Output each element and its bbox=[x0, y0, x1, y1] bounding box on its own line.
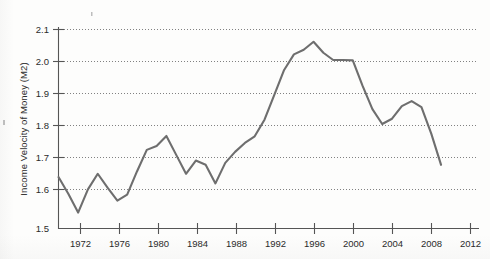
xtick-label-1980: 1980 bbox=[148, 238, 169, 249]
xtick-label-1988: 1988 bbox=[226, 238, 247, 249]
xtick-label-1976: 1976 bbox=[109, 238, 130, 249]
series-line-income-velocity bbox=[59, 42, 442, 213]
ytick-label-1.9: 1.9 bbox=[36, 88, 49, 99]
x-tick-labels: 1972 1976 1980 1984 1988 1992 1996 2000 … bbox=[70, 238, 481, 249]
scan-speck bbox=[91, 12, 93, 16]
ytick-label-2.1: 2.1 bbox=[36, 24, 49, 35]
ytick-label-2.0: 2.0 bbox=[36, 56, 49, 67]
xtick-label-1972: 1972 bbox=[70, 238, 91, 249]
ytick-label-1.8: 1.8 bbox=[36, 120, 49, 131]
figure-container: 2.1 2.0 1.9 1.8 1.7 1.6 1.5 1972 1976 bbox=[0, 0, 490, 259]
xtick-label-1984: 1984 bbox=[187, 238, 208, 249]
xtick-label-2008: 2008 bbox=[421, 238, 442, 249]
ytick-label-1.6: 1.6 bbox=[36, 184, 49, 195]
y-tick-labels: 2.1 2.0 1.9 1.8 1.7 1.6 1.5 bbox=[36, 24, 49, 234]
xtick-label-1992: 1992 bbox=[265, 238, 286, 249]
ytick-label-1.7: 1.7 bbox=[36, 152, 49, 163]
xtick-label-2000: 2000 bbox=[343, 238, 364, 249]
xtick-label-1996: 1996 bbox=[304, 238, 325, 249]
xtick-label-2004: 2004 bbox=[382, 238, 403, 249]
ytick-label-1.5: 1.5 bbox=[36, 223, 49, 234]
y-axis-title: Income Velocity of Money (M2) bbox=[18, 62, 29, 195]
scan-speck-left bbox=[3, 120, 5, 125]
xtick-label-2012: 2012 bbox=[460, 238, 481, 249]
line-chart: 2.1 2.0 1.9 1.8 1.7 1.6 1.5 1972 1976 bbox=[0, 0, 490, 259]
